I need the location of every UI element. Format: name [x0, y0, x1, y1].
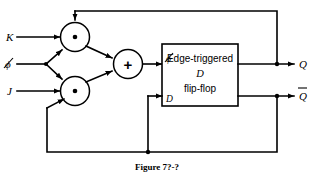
flip-flop-line3: flip-flop — [184, 83, 217, 94]
wire-clock-to-and-bottom — [46, 64, 62, 79]
wire-and-bottom-to-or — [86, 71, 112, 82]
input-label-j: J — [7, 85, 13, 97]
flip-flop-data-label: D — [165, 94, 173, 104]
wire-and-top-to-or — [86, 46, 112, 58]
and-gate-bottom-dot — [73, 89, 78, 94]
flip-flop-line2: D — [195, 68, 204, 79]
figure-caption: Figure 7?-? — [135, 162, 179, 172]
input-label-k: K — [5, 31, 14, 43]
output-label-qbar: Q — [299, 90, 307, 102]
circuit-diagram: + — [0, 0, 314, 173]
flip-flop-line1: Edge-triggered — [167, 53, 233, 64]
and-gate-top-dot — [73, 35, 78, 40]
or-gate-glyph: + — [124, 56, 133, 73]
figure-canvas: + — [0, 0, 314, 173]
wire-clock-to-and-top — [46, 50, 62, 64]
output-label-q: Q — [299, 58, 307, 70]
